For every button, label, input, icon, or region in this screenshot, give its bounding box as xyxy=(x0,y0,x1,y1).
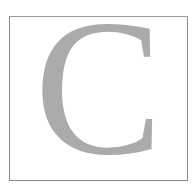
letter-tile-frame: C xyxy=(9,16,188,181)
letter-glyph: C xyxy=(12,16,185,181)
